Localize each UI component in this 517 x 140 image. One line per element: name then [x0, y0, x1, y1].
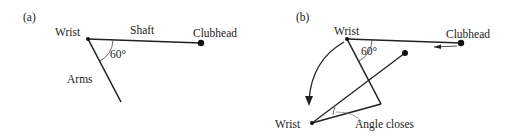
clubhead-label: Clubhead [446, 29, 490, 41]
clubhead-dot-top [458, 40, 464, 46]
clubhead-label: Clubhead [193, 28, 237, 40]
shaft-label: Shaft [130, 25, 154, 37]
panel-a-figure [86, 37, 204, 102]
panel-b-figure [305, 37, 464, 125]
wrist-top-label: Wrist [334, 26, 359, 38]
wrist-bottom-label: Wrist [275, 119, 300, 131]
arms-label: Arms [67, 74, 93, 86]
angle-closes-label: Angle closes [355, 119, 414, 131]
swing-arc [309, 42, 344, 100]
clubhead-dot [198, 40, 204, 46]
angle-label: 60° [361, 46, 377, 58]
wrist-dot [86, 37, 90, 41]
closing-angle-arc [333, 107, 335, 115]
wrist-dot-top [345, 37, 349, 41]
wrist-dot-bottom [310, 121, 314, 125]
shaft-line-bottom [312, 53, 405, 123]
golf-swing-diagram [0, 0, 517, 140]
panel-b-tag: (b) [296, 12, 309, 24]
clubhead-motion-arrow-icon [434, 45, 441, 50]
shaft-line [88, 39, 201, 43]
shaft-line-top [347, 39, 461, 43]
clubhead-dot-bottom [402, 50, 408, 56]
swing-arrowhead-icon [305, 96, 313, 106]
panel-a-tag: (a) [23, 12, 36, 24]
wrist-label: Wrist [55, 27, 80, 39]
angle-label: 60° [110, 49, 126, 61]
